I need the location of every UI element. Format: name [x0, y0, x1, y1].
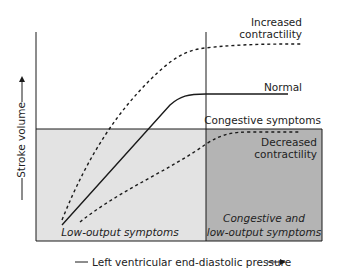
decreased-contractility-label-2: contractility [254, 148, 317, 160]
increased-contractility-label-2: contractility [239, 28, 302, 40]
normal-label: Normal [264, 81, 302, 93]
low-output-region [36, 129, 206, 241]
congestive-symptoms-label: Congestive symptoms [204, 114, 321, 126]
combined-label-2: low-output symptoms [207, 226, 322, 238]
combined-label-1: Congestive and [223, 212, 305, 224]
y-axis-label: Stroke volume [15, 102, 27, 178]
low-output-symptoms-label: Low-output symptoms [61, 226, 179, 238]
decreased-contractility-label-1: Decreased [261, 136, 317, 148]
y-arrowhead-icon [19, 76, 25, 82]
increased-contractility-label-1: Increased [251, 16, 302, 28]
x-axis-label: Left ventricular end-diastolic pressure [92, 256, 291, 268]
frank-starling-diagram: Increased contractility Normal Congestiv… [0, 0, 338, 276]
